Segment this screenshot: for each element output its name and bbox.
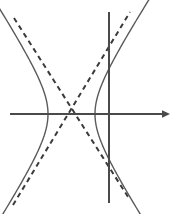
hyperbola-diagram: [0, 0, 175, 214]
figure-canvas: [0, 0, 175, 214]
figure-background: [0, 0, 175, 214]
